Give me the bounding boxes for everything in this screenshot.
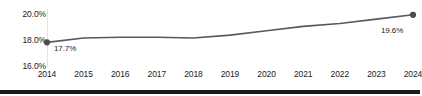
series-markers [44,12,416,46]
series-line [47,15,413,43]
y-axis: 20.0% 18.0% 16.0% [6,0,46,96]
data-label-end: 19.6% [381,26,403,36]
y-axis-tick-label: 18.0% [10,35,46,45]
bottom-divider-bar [0,90,420,94]
x-axis-tick-label: 2019 [221,68,240,80]
data-label-start: 17.7% [54,44,76,54]
x-axis-tick-label: 2021 [294,68,313,80]
data-point-marker [44,39,50,45]
x-axis-tick-label: 2022 [331,68,350,80]
x-axis: 2014201520162017201820192020202120222023… [47,68,413,82]
x-axis-tick-label: 2015 [74,68,93,80]
x-axis-tick-label: 2020 [257,68,276,80]
x-axis-tick-label: 2016 [111,68,130,80]
series-line-group [47,9,413,67]
y-axis-tick-label: 20.0% [10,9,46,19]
data-point-marker [410,12,416,18]
x-axis-tick-label: 2018 [184,68,203,80]
x-axis-tick-label: 2017 [148,68,167,80]
plot-area [47,9,413,67]
x-axis-tick-label: 2014 [38,68,57,80]
x-axis-tick-label: 2023 [367,68,386,80]
x-axis-tick-label: 2024 [404,68,422,80]
